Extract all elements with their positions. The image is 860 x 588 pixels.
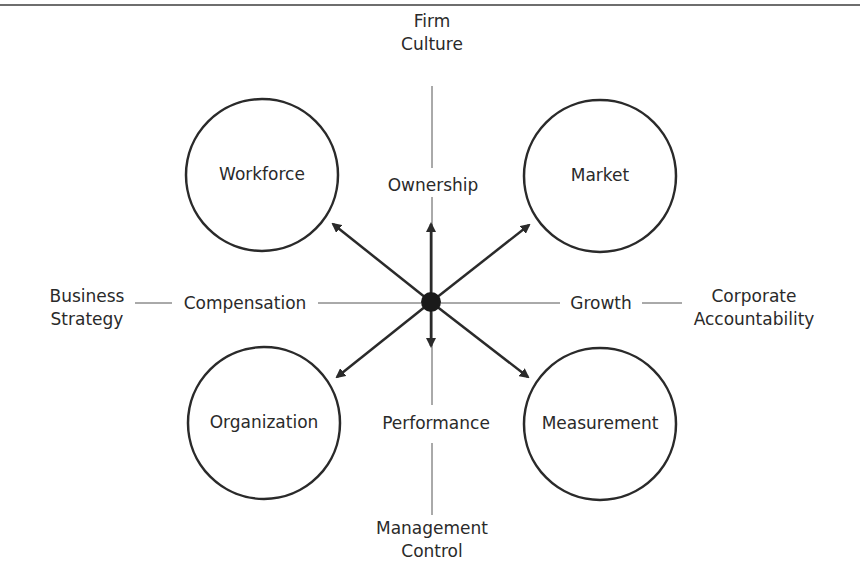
left-axis-label-line2: Strategy <box>51 309 124 329</box>
growth-label: Growth <box>570 293 632 313</box>
bottom-axis-label-line2: Control <box>401 541 462 561</box>
workforce-label: Workforce <box>219 164 305 184</box>
circle-measurement: Measurement <box>524 348 676 500</box>
circle-market: Market <box>524 100 676 252</box>
ownership-label: Ownership <box>388 175 479 195</box>
diagram-canvas: Workforce Market Organization Measuremen… <box>0 0 860 588</box>
left-axis-label-line1: Business <box>50 286 125 306</box>
circle-organization: Organization <box>188 347 340 499</box>
compensation-label: Compensation <box>184 293 307 313</box>
arrow-to-organization <box>337 302 431 377</box>
circle-workforce: Workforce <box>186 99 338 251</box>
performance-label: Performance <box>382 413 490 433</box>
organization-label: Organization <box>210 412 319 432</box>
arrow-to-measurement <box>431 302 528 377</box>
right-axis-label-line1: Corporate <box>712 286 797 306</box>
top-axis-label-line1: Firm <box>414 11 451 31</box>
center-node <box>421 292 441 312</box>
market-label: Market <box>571 165 630 185</box>
right-axis-label-line2: Accountability <box>694 309 815 329</box>
top-axis-label-line2: Culture <box>401 34 463 54</box>
diagram-svg: Workforce Market Organization Measuremen… <box>0 0 860 588</box>
measurement-label: Measurement <box>542 413 659 433</box>
arrow-to-workforce <box>333 224 431 302</box>
arrow-to-market <box>431 225 529 302</box>
bottom-axis-label-line1: Management <box>376 518 488 538</box>
